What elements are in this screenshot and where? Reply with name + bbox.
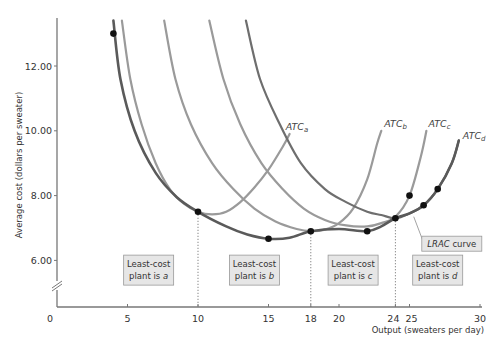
- y-axis-title: Average cost (dollars per sweater): [14, 92, 24, 238]
- x-tick-label: 25: [405, 313, 417, 324]
- data-point: [308, 228, 315, 235]
- y-tick-label: 8.00: [31, 190, 52, 201]
- annotation-line2: plant is c: [334, 271, 373, 281]
- data-point: [392, 215, 399, 222]
- series-atcb: [164, 21, 381, 232]
- data-point: [406, 192, 413, 199]
- y-tick-label: 12.00: [25, 61, 52, 72]
- x-tick-label: 0: [47, 313, 53, 324]
- lrac-label-text: LRAC curve: [427, 239, 476, 249]
- annotation-line1: Least-cost: [233, 259, 277, 269]
- curve-label-atca: ATCa: [285, 121, 309, 134]
- x-tick-label: 18: [305, 313, 317, 324]
- x-tick-label: 30: [474, 313, 486, 324]
- x-tick-label: 15: [262, 313, 274, 324]
- curve-label-atcb: ATCb: [383, 118, 407, 131]
- chart: ATCaATCbATCcATCd 05101518202425306.008.0…: [0, 0, 500, 349]
- data-point: [110, 30, 117, 37]
- curve-label-atcd: ATCd: [462, 130, 486, 143]
- annotations-group: Least-costplant is aLeast-costplant is b…: [124, 217, 482, 285]
- data-point: [265, 235, 272, 242]
- series-atca: [122, 21, 290, 215]
- data-point: [195, 209, 202, 216]
- annotation-line2: plant is b: [235, 271, 274, 281]
- data-point: [434, 186, 441, 193]
- annotation-line1: Least-cost: [127, 259, 171, 269]
- y-tick-label: 6.00: [31, 255, 52, 266]
- y-tick-label: 10.00: [25, 125, 52, 136]
- annotation-line1: Least-cost: [416, 259, 460, 269]
- curve-label-atcc: ATCc: [427, 118, 450, 131]
- annotation-line1: Least-cost: [331, 259, 375, 269]
- x-tick-label: 5: [124, 313, 130, 324]
- data-point: [420, 202, 427, 209]
- series-atcd: [246, 21, 459, 219]
- x-tick-label: 10: [192, 313, 204, 324]
- annotation-line2: plant is d: [418, 271, 458, 281]
- data-point: [364, 228, 371, 235]
- curves-group: ATCaATCbATCcATCd: [113, 21, 486, 239]
- x-tick-label: 24: [387, 313, 399, 324]
- x-axis-title: Output (sweaters per day): [372, 325, 484, 335]
- x-tick-label: 20: [333, 313, 345, 324]
- axis-break-icon: [52, 281, 62, 291]
- annotation-line2: plant is a: [129, 271, 168, 281]
- dots-group: [110, 30, 441, 242]
